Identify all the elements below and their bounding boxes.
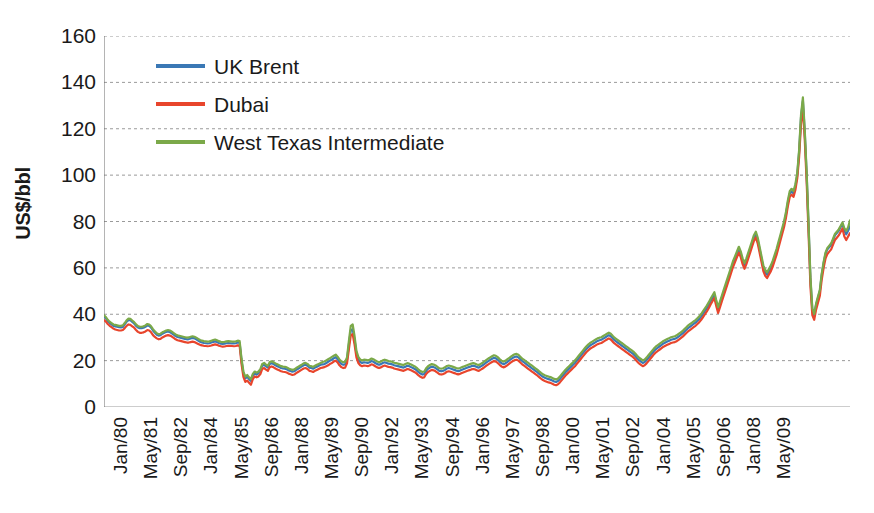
y-tick-label: 160 bbox=[34, 25, 96, 46]
y-tick-label: 20 bbox=[34, 350, 96, 371]
legend-item: UK Brent bbox=[156, 47, 444, 85]
x-tick-label: Jan/04 bbox=[654, 417, 673, 474]
x-tick-label: Jan/80 bbox=[111, 417, 130, 474]
x-tick-label: May/01 bbox=[593, 417, 612, 479]
x-tick-label: May/89 bbox=[322, 417, 341, 479]
legend-label: West Texas Intermediate bbox=[214, 132, 444, 153]
x-tick-label: Sep/82 bbox=[171, 417, 190, 477]
x-tick-label: Sep/98 bbox=[533, 417, 552, 477]
legend-label: UK Brent bbox=[214, 56, 299, 77]
y-axis-title: US$/bbl bbox=[6, 0, 40, 407]
legend-color-swatch bbox=[156, 64, 205, 68]
x-tick-label: Sep/06 bbox=[714, 417, 733, 477]
x-tick-label: Jan/96 bbox=[473, 417, 492, 474]
y-tick-label: 120 bbox=[34, 118, 96, 139]
legend: UK BrentDubaiWest Texas Intermediate bbox=[156, 47, 444, 161]
x-tick-label: May/93 bbox=[412, 417, 431, 479]
y-tick-label: 80 bbox=[34, 211, 96, 232]
oil-price-chart: US$/bbl 020406080100120140160 Jan/80May/… bbox=[0, 0, 874, 513]
x-tick-label: May/05 bbox=[684, 417, 703, 479]
y-tick-label: 60 bbox=[34, 257, 96, 278]
x-tick-label: May/85 bbox=[232, 417, 251, 479]
legend-item: Dubai bbox=[156, 85, 444, 123]
y-tick-label: 40 bbox=[34, 303, 96, 324]
x-tick-label: Jan/00 bbox=[563, 417, 582, 474]
legend-color-swatch bbox=[156, 140, 205, 144]
x-tick-label: Jan/88 bbox=[292, 417, 311, 474]
x-tick-label: Sep/94 bbox=[443, 417, 462, 477]
x-tick-label: Sep/90 bbox=[352, 417, 371, 477]
x-tick-label: Jan/92 bbox=[382, 417, 401, 474]
legend-color-swatch bbox=[156, 102, 205, 106]
y-tick-label: 100 bbox=[34, 164, 96, 185]
x-tick-label: May/81 bbox=[141, 417, 160, 479]
y-tick-label: 140 bbox=[34, 71, 96, 92]
x-tick-label: Jan/84 bbox=[201, 417, 220, 474]
x-tick-label: May/97 bbox=[503, 417, 522, 479]
x-tick-label: Sep/86 bbox=[262, 417, 281, 477]
x-tick-label: Jan/08 bbox=[744, 417, 763, 474]
legend-label: Dubai bbox=[214, 94, 269, 115]
y-tick-label: 0 bbox=[34, 396, 96, 417]
x-tick-label: Sep/02 bbox=[623, 417, 642, 477]
legend-item: West Texas Intermediate bbox=[156, 123, 444, 161]
x-tick-label: May/09 bbox=[774, 417, 793, 479]
